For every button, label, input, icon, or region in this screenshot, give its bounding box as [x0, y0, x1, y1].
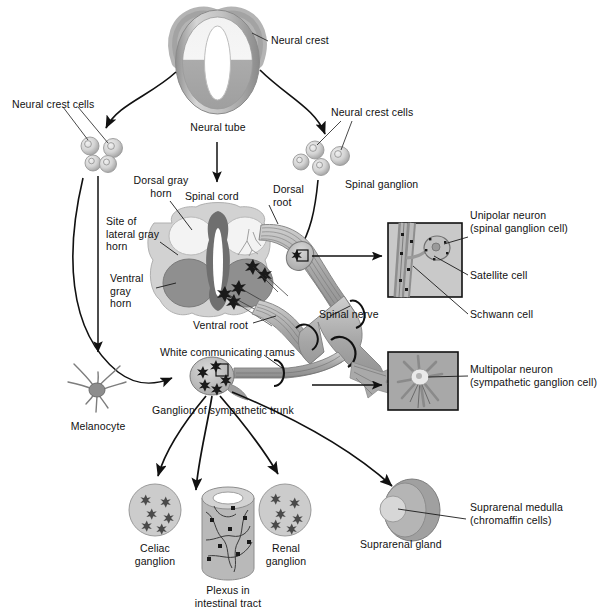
neural-crest-cell-cluster-left: [81, 137, 123, 173]
label-plexus-intestinal-tract: Plexus in intestinal tract: [186, 584, 270, 609]
label-celiac-ganglion: Celiac ganglion: [118, 542, 192, 567]
label-melanocyte: Melanocyte: [62, 420, 134, 433]
label-spinal-ganglion: Spinal ganglion: [345, 178, 418, 191]
celiac-ganglion: [129, 484, 181, 536]
label-neural-crest-cells-right: Neural crest cells: [331, 106, 413, 119]
label-multipolar-neuron: Multipolar neuron (sympathetic ganglion …: [470, 363, 597, 388]
label-neural-crest-cells-left: Neural crest cells: [12, 98, 94, 111]
label-ventral-gray-horn: Ventral gray horn: [110, 272, 143, 310]
label-neural-crest: Neural crest: [271, 34, 329, 47]
migration-arrow-right: [260, 70, 325, 134]
sympathetic-trunk-ganglion: [190, 357, 248, 400]
label-neural-tube: Neural tube: [178, 121, 258, 134]
label-dorsal-root: Dorsal root: [273, 183, 304, 208]
neural-tube-structure: [175, 10, 261, 114]
suprarenal-gland: [380, 479, 466, 541]
label-suprarenal-gland: Suprarenal gland: [360, 538, 442, 551]
intestinal-plexus: [202, 487, 254, 580]
label-renal-ganglion: Renal ganglion: [249, 542, 323, 567]
renal-ganglion: [259, 484, 311, 536]
label-spinal-nerve: Spinal nerve: [319, 308, 379, 321]
label-suprarenal-medulla: Suprarenal medulla (chromaffin cells): [470, 501, 563, 526]
label-ventral-root: Ventral root: [193, 319, 248, 332]
label-schwann-cell: Schwann cell: [470, 308, 533, 321]
migration-arrow-left: [106, 72, 176, 128]
label-white-communicating-ramus: White communicating ramus: [160, 346, 295, 359]
label-satellite-cell: Satellite cell: [470, 269, 527, 282]
label-spinal-cord: Spinal cord: [185, 190, 239, 203]
figure-canvas: Neural crest Neural tube Neural crest ce…: [0, 0, 613, 610]
label-ganglion-sympathetic-trunk: Ganglion of sympathetic trunk: [152, 404, 294, 417]
label-site-lateral-gray-horn: Site of lateral gray horn: [106, 215, 159, 253]
label-unipolar-neuron: Unipolar neuron (spinal ganglion cell): [470, 209, 568, 234]
neural-crest-cell-cluster-right: [293, 141, 350, 176]
